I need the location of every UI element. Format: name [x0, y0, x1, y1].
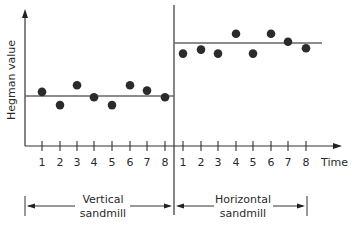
x-tick-label: 3 — [74, 156, 81, 169]
data-point — [197, 45, 206, 54]
arrow-left-icon — [176, 204, 184, 209]
x-tick-label: 5 — [250, 156, 257, 169]
x-tick-label: 8 — [303, 156, 310, 169]
group-label-horizontal-line1: Horizontal — [215, 193, 271, 206]
x-tick-label: 3 — [215, 156, 222, 169]
x-tick-label: 6 — [127, 156, 134, 169]
x-tick-label: 4 — [233, 156, 240, 169]
x-tick-label: 6 — [268, 156, 275, 169]
x-tick-label: 4 — [91, 156, 98, 169]
data-point — [73, 81, 82, 90]
x-axis-label: Time — [320, 156, 348, 169]
x-tick-label: 2 — [57, 156, 64, 169]
data-point — [38, 88, 47, 97]
y-axis-label: Hegman value — [5, 40, 18, 120]
data-point — [249, 49, 258, 58]
data-point — [143, 86, 152, 95]
data-point — [108, 101, 117, 110]
group-label-vertical-line1: Vertical — [82, 193, 123, 206]
x-tick-label: 8 — [162, 156, 169, 169]
x-tick-label: 1 — [180, 156, 187, 169]
data-point — [126, 81, 135, 90]
data-point — [179, 49, 188, 58]
arrow-right-icon — [164, 204, 172, 209]
data-point — [161, 93, 170, 102]
data-point — [232, 30, 241, 39]
x-axis-arrow-icon — [333, 143, 342, 149]
data-point — [302, 44, 311, 53]
arrow-right-icon — [297, 204, 305, 209]
group-label-vertical-line2: sandmill — [80, 207, 126, 220]
data-point — [56, 101, 65, 110]
data-point — [284, 37, 293, 46]
data-point — [214, 49, 223, 58]
y-axis-arrow-icon — [22, 9, 28, 18]
group-label-horizontal-line2: sandmill — [220, 207, 266, 220]
arrow-left-icon — [27, 204, 35, 209]
axes — [25, 14, 334, 146]
x-tick-label: 7 — [285, 156, 292, 169]
x-tick-label: 1 — [39, 156, 46, 169]
x-tick-label: 5 — [109, 156, 116, 169]
x-tick-label: 2 — [198, 156, 205, 169]
data-point — [90, 93, 99, 102]
hegman-chart: 1234567812345678 Hegman value Time Verti… — [0, 0, 352, 230]
data-point — [267, 30, 276, 39]
x-tick-label: 7 — [144, 156, 151, 169]
